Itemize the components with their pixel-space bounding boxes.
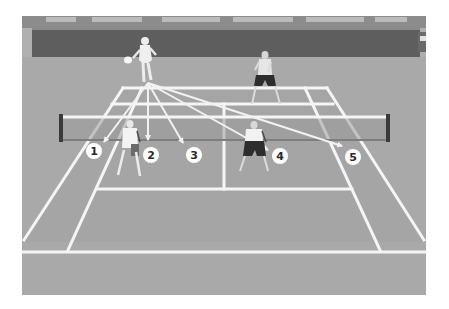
net bbox=[59, 114, 390, 142]
tennis-diagram: 1 2 3 4 5 bbox=[0, 0, 449, 309]
target-label-5: 5 bbox=[345, 149, 361, 165]
racket-icon bbox=[124, 57, 132, 64]
target-label-1: 1 bbox=[86, 143, 102, 159]
back-wall bbox=[32, 27, 420, 57]
svg-text:5: 5 bbox=[349, 151, 357, 164]
target-label-2: 2 bbox=[143, 147, 159, 163]
target-label-3: 3 bbox=[186, 147, 202, 163]
svg-text:3: 3 bbox=[190, 149, 198, 162]
net-post-right bbox=[386, 114, 390, 142]
crowd-strip bbox=[22, 16, 426, 28]
svg-text:1: 1 bbox=[90, 145, 98, 158]
target-label-4: 4 bbox=[272, 148, 288, 164]
svg-text:4: 4 bbox=[276, 150, 284, 163]
net-post-left bbox=[59, 114, 63, 142]
svg-text:2: 2 bbox=[147, 149, 155, 162]
